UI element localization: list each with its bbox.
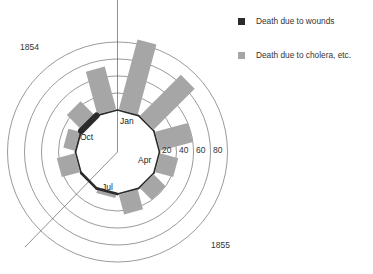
month-label-jul: Jul (102, 182, 113, 192)
ring-label-60: 60 (196, 145, 206, 155)
legend-item-wounds: Death due to wounds (238, 14, 351, 28)
ring-label-40: 40 (179, 145, 189, 155)
bar-cholera-may (140, 174, 166, 200)
legend-item-cholera: Death due to cholera, etc. (238, 48, 351, 62)
year-label-1854: 1854 (20, 42, 39, 52)
legend-swatch-wounds (238, 18, 245, 25)
ring-label-20: 20 (162, 145, 172, 155)
wound-segment-aug (81, 173, 96, 188)
legend-label-wounds: Death due to wounds (256, 16, 334, 26)
axis-lines (25, 0, 118, 247)
month-label-jan: Jan (120, 116, 134, 126)
legend: Death due to wounds Death due to cholera… (238, 14, 351, 82)
legend-label-cholera: Death due to cholera, etc. (256, 50, 351, 60)
ring-tick-labels: 20406080 (162, 145, 223, 155)
year-label-1855: 1855 (211, 240, 230, 250)
month-label-oct: Oct (80, 132, 94, 142)
ring-label-80: 80 (213, 145, 223, 155)
bar-cholera-dec (86, 67, 116, 115)
month-label-apr: Apr (138, 155, 151, 165)
bar-cholera-feb (140, 75, 195, 130)
legend-swatch-cholera (238, 52, 245, 59)
cholera-bars (57, 40, 195, 215)
